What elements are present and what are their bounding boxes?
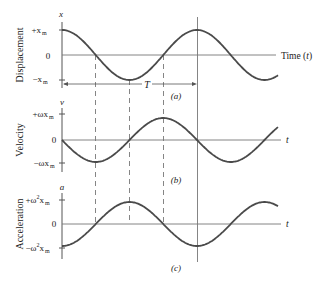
panel-label-b: (b) [171, 175, 182, 185]
panel-displacement: T x +x m 0 −x m Time (t) Displacement (a… [14, 9, 312, 101]
guide-lines [96, 17, 198, 262]
panel-acceleration: a +ω2x m 0 −ω2x m t Acceleration (c) [14, 182, 289, 273]
y-axis-label: Displacement [14, 27, 25, 82]
tick-label-zero: 0 [46, 51, 51, 61]
arrow-right-icon [192, 82, 197, 86]
svg-text:−x: −x [32, 74, 42, 84]
subscript-m: m [42, 30, 47, 36]
tick-label-zero: 0 [52, 135, 57, 145]
subscript-m: m [49, 114, 54, 120]
subscript-m: m [50, 163, 55, 169]
axis-symbol: x [58, 9, 63, 19]
arrow-left-icon [63, 82, 68, 86]
tick-label-zero: 0 [52, 219, 57, 229]
svg-text:+x: +x [31, 25, 41, 35]
subscript-m: m [45, 200, 50, 206]
panel-label-a: (a) [171, 91, 182, 101]
panel-velocity: v +ωx m 0 −ωx m t Velocity (b) [14, 97, 289, 185]
axis-symbol: v [60, 97, 64, 107]
subscript-m: m [45, 248, 50, 254]
tick-label-plus: +x [31, 25, 41, 35]
x-axis-label: t [286, 219, 289, 229]
tick-label-minus: −x [32, 74, 42, 84]
tick-label-plus: +ωx [33, 109, 49, 119]
x-axis-label: Time ( [281, 51, 306, 62]
tick-label-plus: +ω2x [26, 194, 45, 205]
shm-graphs: T x +x m 0 −x m Time (t) Displacement (a… [0, 0, 325, 287]
tick-label-minus: −ω2x [26, 242, 45, 253]
tick-label-minus: −ωx [34, 158, 50, 168]
y-axis-label: Acceleration [14, 198, 25, 249]
y-axis-label: Velocity [14, 123, 25, 156]
panel-label-c: (c) [171, 263, 181, 273]
subscript-m: m [43, 79, 48, 85]
x-axis-label: t [286, 135, 289, 145]
svg-text:Time (t): Time (t) [281, 51, 312, 62]
axis-symbol: a [60, 182, 65, 192]
